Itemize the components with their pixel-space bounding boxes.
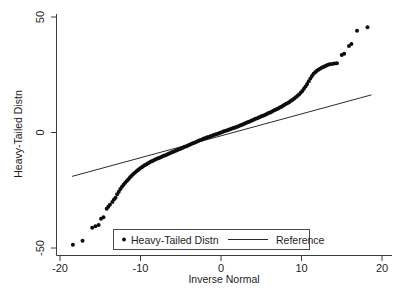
data-point: [81, 239, 85, 243]
data-point: [366, 25, 370, 29]
data-point: [114, 196, 118, 200]
x-tick-label: -20: [52, 262, 68, 274]
data-point: [355, 29, 359, 33]
x-tick-label: 10: [295, 262, 307, 274]
data-point: [71, 243, 75, 247]
legend-label-series: Heavy-Tailed Distn: [131, 234, 219, 246]
reference-line: [72, 95, 371, 177]
y-tick-group: -50050: [34, 11, 57, 256]
data-point: [101, 215, 105, 219]
y-tick-label: 50: [34, 11, 46, 23]
data-point: [349, 42, 353, 46]
x-tick-label: -10: [133, 262, 149, 274]
legend[interactable]: Heavy-Tailed Distn Reference: [114, 230, 325, 250]
data-point: [335, 61, 339, 65]
data-point: [342, 52, 346, 56]
qq-plot-figure: -50050 -20-1001020 Inverse Normal Heavy-…: [0, 0, 406, 293]
y-axis-title: Heavy-Tailed Distn: [12, 90, 24, 178]
legend-label-reference: Reference: [276, 234, 325, 246]
y-tick-label: -50: [34, 240, 46, 256]
chart-canvas: -50050 -20-1001020 Inverse Normal Heavy-…: [0, 0, 406, 293]
x-axis-title: Inverse Normal: [188, 273, 259, 285]
x-tick-group: -20-1001020: [52, 256, 388, 275]
x-tick-label: 20: [376, 262, 388, 274]
data-point: [97, 223, 101, 227]
y-tick-label: 0: [34, 129, 46, 135]
legend-marker-dot: [122, 238, 126, 242]
